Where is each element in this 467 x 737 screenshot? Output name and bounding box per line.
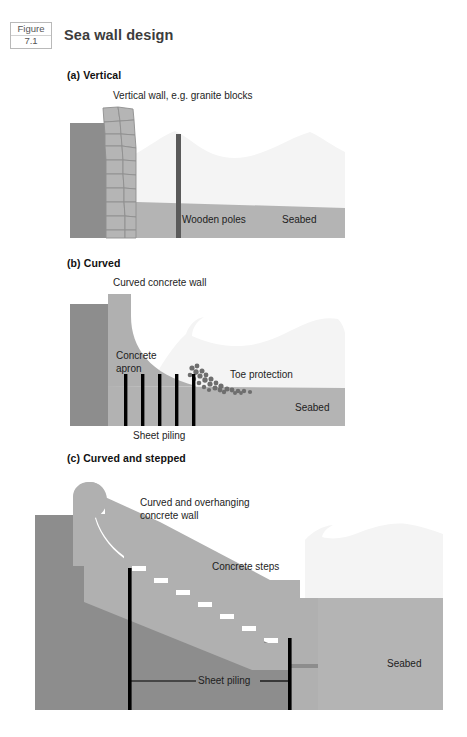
wooden-pole <box>176 134 181 238</box>
sheet-piling-bar <box>175 374 178 426</box>
land-mass-b <box>70 304 108 426</box>
diagram-curved <box>0 276 467 436</box>
page-title: Sea wall design <box>64 27 174 43</box>
sheet-piling-bar <box>141 374 144 426</box>
section-heading-curved-stepped: (c) Curved and stepped <box>67 452 186 464</box>
vertical-wall-label: Vertical wall, e.g. granite blocks <box>113 90 253 103</box>
curved-diagram-svg <box>0 276 467 436</box>
sheet-piling-bar <box>124 374 127 426</box>
toe-protection-label: Toe protection <box>230 369 293 382</box>
sheet-piling-label-c: Sheet piling <box>198 675 250 688</box>
concrete-steps-label: Concrete steps <box>212 561 279 574</box>
sheet-piling-bar-right <box>288 638 292 710</box>
section-heading-curved: (b) Curved <box>67 257 121 269</box>
figure-number-badge: Figure 7.1 <box>10 22 52 49</box>
seabed-label-c: Seabed <box>387 658 421 671</box>
sheet-piling-label-b: Sheet piling <box>133 430 185 443</box>
figure-badge-word: Figure <box>11 24 51 35</box>
figure-header: Figure 7.1 Sea wall design <box>10 22 174 49</box>
sheet-piling-bar <box>192 374 195 426</box>
concrete-apron-label: Concrete apron <box>116 350 157 375</box>
seabed-label-b: Seabed <box>295 402 329 415</box>
granite-block-wall <box>103 107 136 238</box>
sheet-piling-bar-left <box>128 568 132 710</box>
curved-overhanging-wall-label: Curved and overhanging concrete wall <box>140 497 250 522</box>
seabed-label-a: Seabed <box>282 214 316 227</box>
wooden-poles-label: Wooden poles <box>182 214 246 227</box>
land-mass-a <box>70 123 106 238</box>
sheet-piling-bar <box>158 374 161 426</box>
seabed-shape-c <box>318 598 443 710</box>
section-heading-vertical: (a) Vertical <box>67 69 121 81</box>
concrete-apron <box>108 386 196 426</box>
figure-badge-number: 7.1 <box>11 35 51 47</box>
curved-concrete-wall-label: Curved concrete wall <box>113 277 206 290</box>
